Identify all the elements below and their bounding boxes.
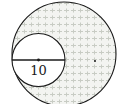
geometry-diagram: 10	[0, 0, 117, 104]
small-circle-center-point	[37, 59, 40, 62]
diameter-label: 10	[30, 63, 47, 78]
large-circle-point	[94, 60, 96, 62]
